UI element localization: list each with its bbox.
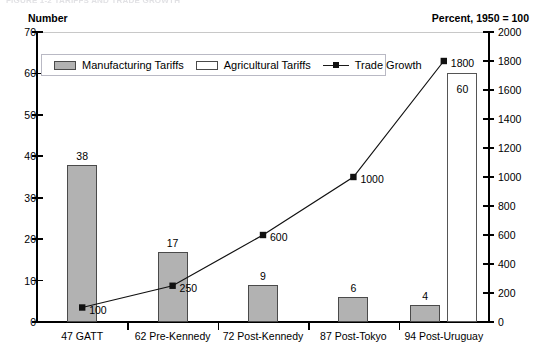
legend-item-agricultural-tariffs: Agricultural Tariffs — [196, 59, 311, 71]
left-axis-tick-label: 70 — [24, 27, 36, 38]
trade-growth-point-label: 250 — [180, 283, 198, 294]
left-axis-tick-label: 50 — [24, 110, 36, 121]
left-axis-tick-label: 60 — [24, 68, 36, 79]
right-axis-tick-label: 2000 — [498, 27, 521, 38]
left-axis-tick-label: 10 — [24, 276, 36, 287]
left-axis-tick-label: 40 — [24, 151, 36, 162]
legend-line-marker-icon-trade-growth — [323, 61, 349, 70]
left-axis-tick-label: 30 — [24, 193, 36, 204]
x-axis-tick — [399, 321, 401, 330]
legend-swatch-icon-manufacturing — [54, 61, 76, 70]
trade-growth-polyline — [82, 61, 444, 308]
x-axis-category-label: 87 Post-Tokyo — [320, 331, 387, 342]
trade-growth-marker — [350, 174, 356, 180]
right-axis-tick-label: 1800 — [498, 56, 521, 67]
left-axis-tick-label: 0 — [30, 317, 36, 328]
trade-growth-point-label: 1000 — [360, 174, 383, 185]
chart-figure: FIGURE 1-2 TARIFFS AND TRADE GROWTH Numb… — [0, 0, 535, 352]
chart-legend: Manufacturing Tariffs Agricultural Tarif… — [41, 54, 386, 76]
x-axis-category-label: 47 GATT — [61, 331, 103, 342]
x-axis-category-label: 62 Pre-Kennedy — [135, 331, 211, 342]
trade-growth-point-label: 1800 — [451, 58, 474, 69]
right-axis-tick-label: 600 — [498, 230, 516, 241]
right-axis-tick-label: 1200 — [498, 143, 521, 154]
right-axis-caption: Percent, 1950 = 100 — [432, 12, 529, 24]
legend-label-manufacturing: Manufacturing Tariffs — [82, 59, 184, 71]
legend-label-agricultural: Agricultural Tariffs — [224, 59, 311, 71]
legend-item-manufacturing-tariffs: Manufacturing Tariffs — [54, 59, 184, 71]
legend-item-trade-growth: Trade Growth — [323, 59, 422, 71]
legend-label-trade-growth: Trade Growth — [355, 59, 422, 71]
right-axis-tick-label: 800 — [498, 201, 516, 212]
right-axis-tick-label: 0 — [498, 317, 504, 328]
x-axis-category-label: 72 Post-Kennedy — [223, 331, 304, 342]
left-axis-caption: Number — [28, 12, 68, 24]
trade-growth-marker — [169, 283, 175, 289]
trade-growth-markers — [79, 58, 447, 311]
trade-growth-marker — [79, 304, 85, 310]
trade-growth-marker — [441, 58, 447, 64]
right-axis-tick-label: 1000 — [498, 172, 521, 183]
trade-growth-point-label: 100 — [89, 305, 107, 316]
right-axis-tick-label: 200 — [498, 288, 516, 299]
x-axis-tick — [308, 321, 310, 330]
figure-title: FIGURE 1-2 TARIFFS AND TRADE GROWTH — [6, 0, 180, 5]
x-axis-category-label: 94 Post-Uruguay — [404, 331, 483, 342]
trade-growth-point-label: 600 — [270, 232, 288, 243]
trade-growth-marker — [260, 232, 266, 238]
x-axis-tick — [218, 321, 220, 330]
right-axis-tick-label: 1400 — [498, 114, 521, 125]
left-axis-tick-label: 20 — [24, 234, 36, 245]
x-axis-tick — [127, 321, 129, 330]
legend-swatch-icon-agricultural — [196, 61, 218, 70]
right-axis-tick-label: 400 — [498, 259, 516, 270]
right-axis-tick-label: 1600 — [498, 85, 521, 96]
